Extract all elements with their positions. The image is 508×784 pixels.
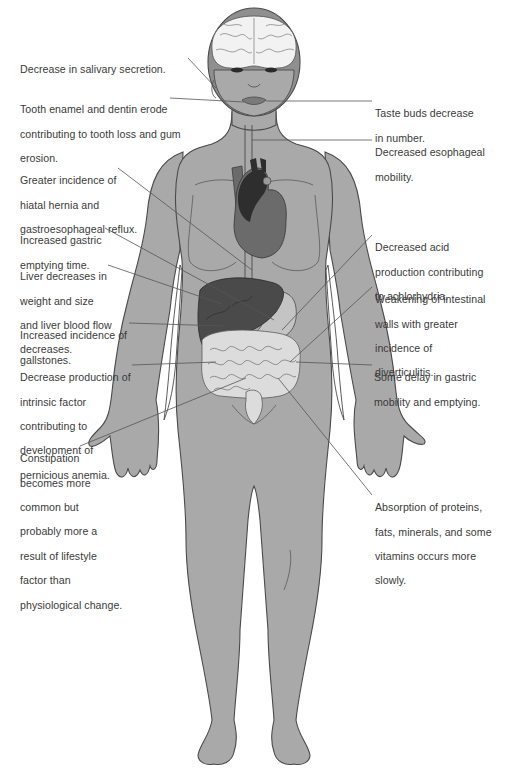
head	[208, 8, 300, 116]
label-absorption: Absorption of proteins, fats, minerals, …	[375, 489, 492, 599]
label-esophageal-mobility: Decreased esophageal mobility.	[375, 134, 485, 195]
label-salivary-secretion: Decrease in salivary secretion.	[20, 51, 166, 88]
label-constipation: Constipation becomes more common but pro…	[20, 440, 122, 623]
label-gastric-delay: Some delay in gastric mobility and empty…	[374, 359, 481, 420]
